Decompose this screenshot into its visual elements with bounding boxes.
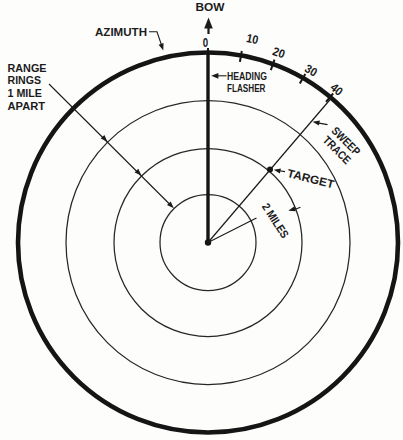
azimuth-label: AZIMUTH bbox=[95, 26, 147, 38]
range-rings-note-line-2: RINGS bbox=[8, 74, 42, 86]
sweep-trace-arrow-shaft bbox=[319, 123, 328, 125]
target-arrowhead bbox=[274, 168, 281, 173]
azimuth-tick-label-0: 0 bbox=[203, 36, 209, 50]
range-rings-leader-line bbox=[49, 84, 172, 207]
azimuth-tick-10 bbox=[240, 51, 242, 62]
azimuth-tick-label-10: 10 bbox=[245, 31, 260, 47]
heading-flasher-label-line-1: HEADING bbox=[227, 70, 267, 82]
radar-ppi-scope: BOW 0 10 20 30 40 AZIMUTH RANGE RINGS 1 … bbox=[0, 0, 403, 440]
heading-flasher-label-line-2: FLASHER bbox=[227, 82, 266, 94]
bow-arrow-icon bbox=[204, 18, 213, 35]
bow-arrowhead bbox=[204, 18, 213, 29]
sweep-trace-arrowhead bbox=[313, 120, 320, 125]
bow-label: BOW bbox=[196, 1, 225, 13]
range-rings-note-line-4: APART bbox=[8, 100, 46, 112]
azimuth-leader-arrowhead bbox=[159, 43, 164, 51]
radar-ppi-diagram: BOW 0 10 20 30 40 AZIMUTH RANGE RINGS 1 … bbox=[0, 0, 403, 440]
two-miles-center-line bbox=[208, 218, 257, 243]
two-miles-label: 2 MILES bbox=[260, 201, 291, 240]
target-label: TARGET bbox=[286, 167, 335, 190]
sweep-trace-label: SWEEP TRACE bbox=[320, 124, 362, 166]
range-rings-note-line-1: RANGE bbox=[8, 62, 47, 74]
range-rings-note-line-3: 1 MILE bbox=[8, 87, 43, 99]
heading-flasher-arrowhead bbox=[211, 73, 218, 79]
azimuth-leader-line bbox=[149, 32, 162, 45]
target-dot bbox=[267, 167, 273, 173]
azimuth-tick-label-20: 20 bbox=[271, 44, 287, 61]
